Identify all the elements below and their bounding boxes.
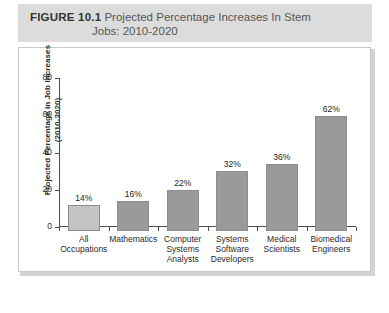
figure-root: FIGURE 10.1 Projected Percentage Increas… <box>0 0 389 313</box>
y-axis-title-line-1: Projected Percentage in Job Increases <box>43 40 53 200</box>
bar: 14% <box>68 205 100 231</box>
plot-area: 020406080 14%16%22%32%36%62% AllOccupati… <box>59 78 356 231</box>
x-category-label: BiomedicalEngineers <box>301 234 363 254</box>
y-tick-label: 0 <box>47 221 52 231</box>
bar: 16% <box>117 201 149 231</box>
bar: 32% <box>216 171 248 231</box>
x-tick-mark <box>158 227 159 231</box>
x-tick-mark <box>59 227 60 231</box>
y-tick-label: 60 <box>43 109 52 119</box>
bar-value-label: 62% <box>323 104 340 114</box>
bar-value-label: 32% <box>224 159 241 169</box>
y-tick-label: 80 <box>43 72 52 82</box>
x-category-label-line: Occupations <box>53 244 115 254</box>
figure-title-part-2: Jobs: 2010-2020 <box>92 25 178 37</box>
figure-number-label: FIGURE 10.1 <box>30 11 101 23</box>
y-tick-label: 20 <box>43 184 52 194</box>
bar-value-label: 22% <box>174 178 191 188</box>
figure-caption-line-2: Jobs: 2010-2020 <box>30 24 364 38</box>
figure-caption-band: FIGURE 10.1 Projected Percentage Increas… <box>18 4 372 42</box>
y-tick-mark <box>55 190 60 191</box>
bar-value-label: 16% <box>125 189 142 199</box>
bar-chart: Projected Percentage in Job Increases (2… <box>19 48 372 273</box>
figure-caption-line-1: FIGURE 10.1 Projected Percentage Increas… <box>30 10 364 24</box>
y-tick-mark <box>55 115 60 116</box>
bar: 62% <box>315 116 347 231</box>
figure-title-part-1: Projected Percentage Increases In Stem <box>104 11 310 23</box>
bar-value-label: 36% <box>273 152 290 162</box>
x-tick-mark <box>356 227 357 231</box>
x-category-label-line: Developers <box>202 254 264 264</box>
y-tick-mark <box>55 153 60 154</box>
bar: 36% <box>266 164 298 231</box>
bar-value-label: 14% <box>75 193 92 203</box>
x-tick-mark <box>208 227 209 231</box>
x-category-label-line: Biomedical <box>301 234 363 244</box>
x-category-label-line: Engineers <box>301 244 363 254</box>
chart-panel: Projected Percentage in Job Increases (2… <box>18 47 371 272</box>
x-tick-mark <box>109 227 110 231</box>
bar: 22% <box>167 190 199 231</box>
x-tick-mark <box>307 227 308 231</box>
y-tick-mark <box>55 78 60 79</box>
x-tick-mark <box>257 227 258 231</box>
y-tick-label: 40 <box>43 147 52 157</box>
